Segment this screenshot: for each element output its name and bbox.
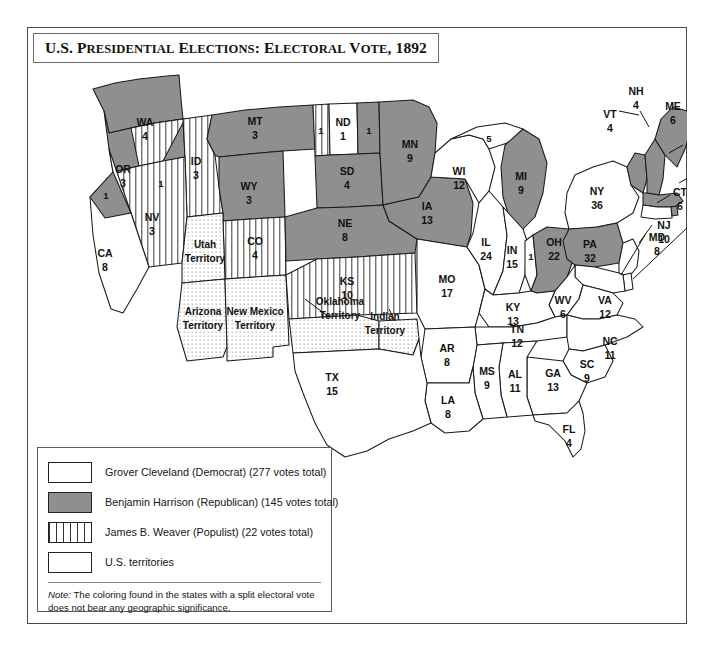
- label-co: CO: [247, 235, 263, 247]
- label-co-votes: 4: [252, 249, 258, 261]
- label-or: OR: [115, 163, 131, 175]
- west-region: [90, 75, 315, 361]
- label-nh: NH: [628, 85, 643, 97]
- label-in: IN: [507, 244, 518, 256]
- label-indian-territory-line1: Indian: [370, 311, 399, 322]
- label-al: AL: [508, 368, 523, 380]
- label-sd: SD: [340, 165, 355, 177]
- legend-row-cleveland: Grover Cleveland (Democrat) (277 votes t…: [48, 457, 321, 487]
- label-ct-votes: 6: [677, 200, 683, 212]
- legend: Grover Cleveland (Democrat) (277 votes t…: [37, 447, 332, 612]
- legend-swatch-dotted: [48, 552, 92, 573]
- label-wa-votes: 4: [142, 130, 148, 142]
- label-tn: TN: [510, 323, 524, 335]
- label-md: MD: [649, 231, 666, 243]
- label-il-votes: 24: [480, 250, 492, 262]
- label-ca: CA: [97, 247, 113, 259]
- label-pa-votes: 32: [584, 252, 596, 264]
- label-nd-weaver-votes: 1: [318, 125, 324, 136]
- label-nc-votes: 11: [604, 349, 615, 361]
- legend-label-weaver: James B. Weaver (Populist) (22 votes tot…: [105, 526, 313, 538]
- label-wa: WA: [137, 116, 154, 128]
- label-ca-votes: 8: [102, 261, 108, 273]
- leader-ri: [679, 175, 687, 183]
- label-oh-votes: 22: [548, 250, 560, 262]
- label-or-votes: 3: [120, 177, 126, 189]
- label-ia-votes: 13: [421, 214, 433, 226]
- legend-label-cleveland: Grover Cleveland (Democrat) (277 votes t…: [105, 466, 326, 478]
- state-tx[interactable]: [293, 339, 431, 457]
- legend-swatch-white: [48, 462, 92, 483]
- label-fl: FL: [563, 423, 576, 435]
- label-fl-votes: 4: [566, 437, 572, 449]
- state-mt[interactable]: [207, 105, 315, 157]
- label-me: ME: [665, 100, 681, 112]
- label-sc-votes: 9: [584, 372, 590, 384]
- label-la-votes: 8: [445, 408, 451, 420]
- label-ca-split-votes: 1: [103, 190, 109, 201]
- label-md-votes: 8: [654, 245, 660, 257]
- label-va-votes: 12: [599, 308, 611, 320]
- label-mt: MT: [247, 115, 263, 127]
- label-arizona-territory-line2: Territory: [183, 320, 224, 331]
- legend-note-text: The coloring found in the states with a …: [48, 589, 314, 613]
- label-sd-votes: 4: [344, 179, 350, 191]
- map-figure: U.S. PRESIDENTIAL ELECTIONS: ELECTORAL V…: [0, 0, 715, 645]
- label-ky: KY: [506, 301, 521, 313]
- label-nd-harrison-votes: 1: [366, 125, 372, 136]
- northeast-region: [563, 107, 687, 293]
- label-mi-split-votes: 5: [486, 133, 492, 144]
- label-ks: KS: [340, 275, 355, 287]
- label-la: LA: [441, 394, 455, 406]
- label-ne: NE: [338, 217, 353, 229]
- label-sc: SC: [580, 358, 595, 370]
- label-wy-votes: 3: [246, 194, 252, 206]
- label-or-split-votes: 1: [158, 178, 164, 189]
- label-oh-split-votes: 1: [528, 251, 534, 262]
- territory-new-mexico[interactable]: [225, 275, 289, 361]
- label-ms-votes: 9: [484, 379, 490, 391]
- label-ar: AR: [439, 342, 455, 354]
- legend-label-territories: U.S. territories: [105, 556, 174, 568]
- legend-row-territories: U.S. territories: [48, 547, 321, 577]
- label-tx: TX: [325, 371, 338, 383]
- leader-nh: [640, 111, 649, 127]
- label-ar-votes: 8: [444, 356, 450, 368]
- label-tn-votes: 12: [511, 337, 523, 349]
- label-al-votes: 11: [509, 382, 520, 394]
- label-ne-votes: 8: [342, 231, 348, 243]
- label-nv: NV: [145, 211, 160, 223]
- label-mi-votes: 9: [518, 184, 524, 196]
- label-wi: WI: [453, 165, 466, 177]
- label-mo-votes: 17: [441, 287, 453, 299]
- label-ny: NY: [590, 185, 605, 197]
- leader-vt: [619, 111, 639, 115]
- label-ms: MS: [479, 365, 495, 377]
- label-mn-votes: 9: [407, 152, 413, 164]
- state-ct[interactable]: [641, 205, 672, 219]
- label-wi-votes: 12: [453, 179, 465, 191]
- label-wy: WY: [241, 180, 258, 192]
- label-wv: WV: [555, 294, 572, 306]
- label-indian-territory-line2: Territory: [365, 325, 406, 336]
- label-tx-votes: 15: [326, 385, 338, 397]
- label-nh-votes: 4: [633, 99, 639, 111]
- label-mi: MI: [515, 170, 527, 182]
- legend-label-harrison: Benjamin Harrison (Republican) (145 vote…: [105, 496, 338, 508]
- label-utah-territory-line1: Utah: [194, 239, 216, 250]
- label-mn: MN: [402, 138, 418, 150]
- legend-note-prefix: Note:: [48, 589, 71, 600]
- legend-swatch-gray: [48, 492, 92, 513]
- label-ny-votes: 36: [591, 199, 603, 211]
- legend-row-weaver: James B. Weaver (Populist) (22 votes tot…: [48, 517, 321, 547]
- legend-row-harrison: Benjamin Harrison (Republican) (145 vote…: [48, 487, 321, 517]
- label-mo: MO: [439, 273, 456, 285]
- label-nj: NJ: [657, 219, 671, 231]
- label-oh: OH: [546, 236, 562, 248]
- label-ct: CT: [673, 186, 687, 198]
- label-wv-votes: 6: [560, 308, 566, 320]
- label-nd-votes: 1: [340, 130, 346, 142]
- legend-swatch-striped: [48, 522, 92, 543]
- label-new-mexico-territory-line1: New Mexico: [226, 306, 283, 317]
- label-id-votes: 3: [193, 169, 199, 181]
